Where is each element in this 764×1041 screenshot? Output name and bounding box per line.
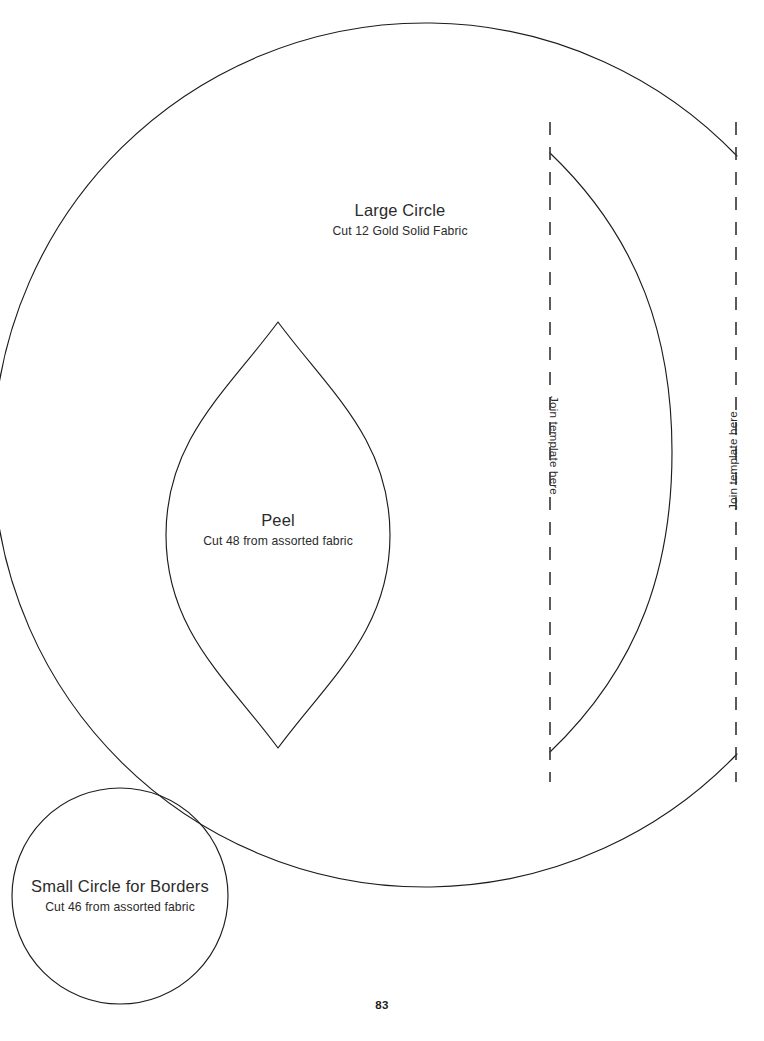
large-circle-instruction: Cut 12 Gold Solid Fabric [240,224,560,239]
join-template-label-right: Join template here [726,411,739,510]
peel-title: Peel [122,510,434,531]
large-circle-label: Large Circle Cut 12 Gold Solid Fabric [240,200,560,239]
large-circle-join-arc [550,153,672,752]
template-page: Large Circle Cut 12 Gold Solid Fabric Pe… [0,0,764,1041]
page-number: 83 [0,999,764,1011]
large-circle-title: Large Circle [240,200,560,221]
small-circle-title: Small Circle for Borders [6,876,234,897]
peel-instruction: Cut 48 from assorted fabric [122,534,434,549]
small-circle-instruction: Cut 46 from assorted fabric [6,900,234,915]
large-circle-outline [0,23,737,887]
small-circle-label: Small Circle for Borders Cut 46 from ass… [6,876,234,915]
join-template-label-left: Join template here [548,396,561,495]
peel-label: Peel Cut 48 from assorted fabric [122,510,434,549]
